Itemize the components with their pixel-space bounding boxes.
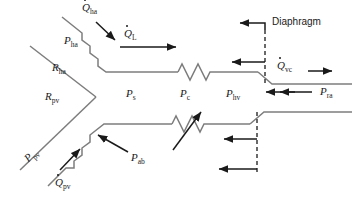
- p-ab-symbol: P: [131, 151, 138, 163]
- p-hv-subscript: hv: [233, 93, 241, 102]
- q-ha-arrow: [96, 22, 115, 40]
- label-q-l: QL: [124, 28, 137, 42]
- q-pv-subscript: pv: [63, 182, 71, 191]
- p-ha-subscript: ha: [71, 40, 78, 49]
- diaphragm-dashed-lines: [257, 30, 265, 175]
- r-ha-subscript: ha: [59, 67, 66, 76]
- ha-inner-wall-stepped: [62, 17, 178, 72]
- label-r-ha: Rha: [52, 62, 66, 76]
- label-p-s: Ps: [126, 88, 136, 102]
- lower-channel-walls: [20, 97, 352, 186]
- p-c-subscript: c: [187, 93, 190, 102]
- upper-channel-walls: [30, 17, 352, 97]
- p-hv-symbol: P: [226, 87, 233, 99]
- q-ha-subscript: ha: [90, 7, 97, 16]
- r-ha-symbol: R: [52, 61, 59, 73]
- p-ra-subscript: ra: [327, 91, 333, 100]
- upper-resistor-zigzag: [178, 64, 258, 80]
- label-q-pv: Qpv: [55, 177, 70, 191]
- q-pv-symbol: Q: [55, 177, 63, 188]
- upper-wall-drop: [258, 72, 352, 84]
- p-c-symbol: P: [180, 87, 187, 99]
- p-s-subscript: s: [133, 93, 136, 102]
- flow-arrows: [60, 22, 332, 170]
- q-l-symbol: Q: [124, 28, 132, 39]
- label-p-ha: Pha: [64, 35, 78, 49]
- lower-resistor-zigzag: [172, 116, 250, 132]
- diaphragm-leader-line: [240, 23, 265, 30]
- q-vc-symbol: Q: [277, 60, 285, 71]
- label-diaphragm: Diaphragm: [272, 17, 321, 27]
- p-ab-arrow-left: [98, 135, 128, 152]
- label-r-pv: Rpv: [45, 91, 59, 105]
- p-ra-symbol: P: [320, 85, 327, 97]
- p-ha-symbol: P: [64, 34, 71, 46]
- r-pv-symbol: R: [45, 90, 52, 102]
- label-p-c: Pc: [180, 88, 190, 102]
- label-p-ra: Pra: [320, 86, 333, 100]
- label-q-ha: Qha: [82, 2, 97, 16]
- q-l-subscript: L: [132, 33, 137, 42]
- q-ha-symbol: Q: [82, 2, 90, 13]
- p-s-symbol: P: [126, 87, 133, 99]
- p-ab-subscript: ab: [138, 157, 145, 166]
- label-p-hv: Phv: [226, 88, 240, 102]
- diagram-root: Qha Pha Rha Rpv Ppv Qpv QL Ps Pc Pab Phv…: [0, 0, 360, 202]
- diaphragm-leader: [240, 23, 265, 30]
- label-q-vc: Qvc: [277, 60, 292, 74]
- label-p-ab: Pab: [131, 152, 145, 166]
- r-pv-subscript: pv: [52, 96, 60, 105]
- q-vc-subscript: vc: [285, 65, 292, 74]
- lower-wall-rise: [250, 112, 352, 124]
